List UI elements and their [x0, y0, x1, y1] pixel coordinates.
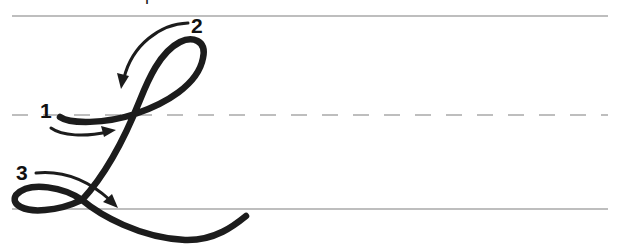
diagram-canvas: [0, 0, 617, 251]
arrow-1-head-icon: [101, 126, 116, 137]
arrow-1-icon: [51, 128, 108, 135]
step-label-3: 3: [16, 162, 28, 183]
arrow-2-head-icon: [117, 73, 129, 89]
step-label-1: 1: [40, 100, 52, 121]
stroke-order-diagram: Cursive capital L stroke order 1 2 3: [0, 0, 617, 251]
letter-l-stroke: [15, 39, 246, 240]
step-label-2: 2: [191, 15, 203, 36]
